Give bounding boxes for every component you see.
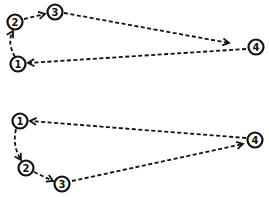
top-node-1-label: 1 bbox=[15, 59, 22, 70]
top-node-1: 1 bbox=[11, 57, 26, 72]
edge-top-4-to-1 bbox=[28, 49, 246, 63]
bottom-node-3: 3 bbox=[55, 177, 70, 192]
top-node-4: 4 bbox=[249, 40, 264, 55]
bottom-node-3-label: 3 bbox=[59, 179, 66, 190]
edge-bottom-4-to-1 bbox=[30, 121, 246, 138]
bottom-node-4: 4 bbox=[248, 133, 263, 148]
top-node-3-label: 3 bbox=[52, 7, 59, 18]
bottom-node-2-label: 2 bbox=[23, 163, 30, 174]
edge-top-3-to-4 bbox=[64, 13, 229, 43]
bottom-node-1: 1 bbox=[13, 114, 28, 129]
top-node-4-label: 4 bbox=[253, 42, 260, 53]
top-node-2: 2 bbox=[8, 15, 23, 30]
diagram-canvas: 2 3 4 1 1 2 3 bbox=[0, 0, 269, 197]
edge-top-2-to-3 bbox=[24, 14, 45, 19]
top-cycle-diagram: 2 3 4 1 bbox=[8, 5, 264, 72]
bottom-node-4-label: 4 bbox=[252, 135, 259, 146]
bottom-node-2: 2 bbox=[19, 161, 34, 176]
edge-bottom-1-to-2 bbox=[15, 129, 21, 160]
top-node-2-label: 2 bbox=[12, 17, 19, 28]
edge-top-1-to-2 bbox=[10, 31, 15, 57]
bottom-node-1-label: 1 bbox=[17, 116, 24, 127]
edge-bottom-3-to-4 bbox=[72, 144, 243, 181]
edge-bottom-2-to-3 bbox=[34, 172, 53, 181]
top-node-3: 3 bbox=[48, 5, 63, 20]
bottom-cycle-diagram: 1 2 3 4 bbox=[13, 114, 263, 192]
